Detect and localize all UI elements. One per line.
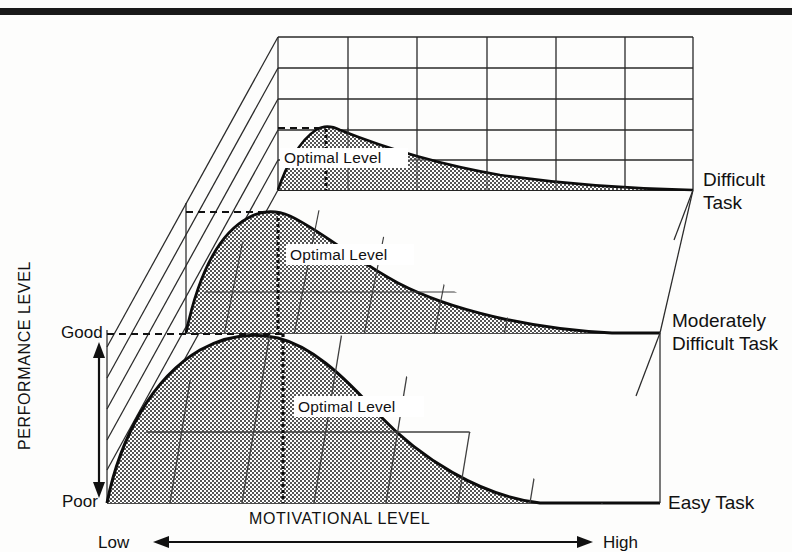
moderate-right-rail <box>636 333 660 396</box>
moderate-task-line2: Difficult Task <box>672 333 778 354</box>
easy-task-line1: Easy Task <box>668 492 755 513</box>
performance-axis-arrow <box>93 342 105 498</box>
figure-root: Optimal Level Difficult Task <box>0 0 792 552</box>
label-moderately-difficult-task: Moderately Difficult Task <box>672 310 778 354</box>
motivation-axis-low-label: Low <box>98 533 130 552</box>
motivation-axis-high-label: High <box>603 533 638 552</box>
difficult-task-line2: Task <box>703 192 743 213</box>
difficult-task-line1: Difficult <box>703 169 766 190</box>
series-difficult-task: Optimal Level <box>272 120 700 240</box>
yerkes-dodson-chart: Optimal Level Difficult Task <box>0 0 792 552</box>
motivation-axis-arrow <box>153 536 593 548</box>
performance-axis: PERFORMANCE LEVEL Good Poor <box>16 261 105 511</box>
moderate-fill <box>186 212 660 333</box>
motivation-axis-title: MOTIVATIONAL LEVEL <box>249 510 430 527</box>
optimal-level-label-difficult: Optimal Level <box>284 149 381 166</box>
performance-axis-title: PERFORMANCE LEVEL <box>16 261 33 450</box>
performance-axis-good-label: Good <box>61 323 103 342</box>
performance-axis-poor-label: Poor <box>62 492 98 511</box>
motivation-axis: MOTIVATIONAL LEVEL Low High <box>98 510 638 552</box>
label-easy-task: Easy Task <box>668 492 755 513</box>
series-easy-task: Optimal Level <box>100 320 668 515</box>
label-difficult-task: Difficult Task <box>703 169 766 213</box>
optimal-level-label-moderate: Optimal Level <box>290 246 387 263</box>
optimal-level-label-easy: Optimal Level <box>298 398 395 415</box>
moderate-task-line1: Moderately <box>672 310 766 331</box>
